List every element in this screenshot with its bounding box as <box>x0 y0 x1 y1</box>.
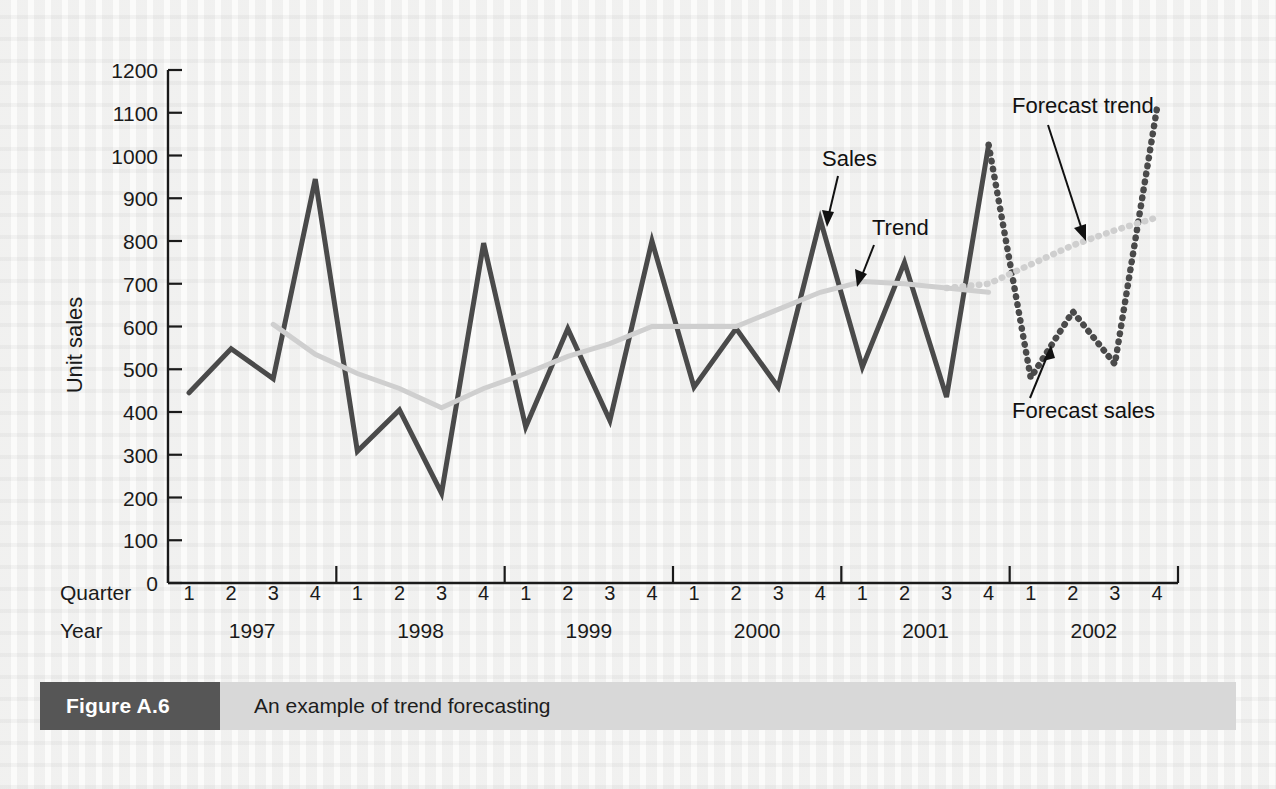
x-axis-quarter-label: 1 <box>1025 582 1036 604</box>
x-axis-year-label: 1998 <box>397 619 444 642</box>
x-axis-quarter-label: 1 <box>352 582 363 604</box>
y-axis-tick-label: 400 <box>123 401 158 424</box>
x-axis-year-label: 1997 <box>229 619 276 642</box>
y-axis-tick-label: 1100 <box>113 102 158 125</box>
x-axis-quarter-label: 1 <box>688 582 699 604</box>
y-axis-tick-label: 0 <box>146 572 158 595</box>
x-axis-quarter-label: 3 <box>1109 582 1120 604</box>
annotation-label-trend: Trend <box>872 215 929 240</box>
x-axis-quarter-label: 2 <box>1067 582 1078 604</box>
x-axis-quarter-label: 4 <box>815 582 826 604</box>
x-axis-quarter-label: 3 <box>941 582 952 604</box>
series-line-trend <box>273 282 988 408</box>
y-axis-tick-label: 800 <box>123 230 158 253</box>
annotation-arrowhead-forecast-trend <box>1074 224 1086 241</box>
x-axis-quarter-label: 4 <box>1151 582 1162 604</box>
figure-number-box: Figure A.6 <box>40 682 220 730</box>
trend-forecast-line-chart: Unit sales 01002003004005006007008009001… <box>0 0 1276 660</box>
y-axis-tick-label: 900 <box>123 187 158 210</box>
chart-plot-area: Unit sales 01002003004005006007008009001… <box>0 0 1276 660</box>
y-axis-tick-label: 600 <box>123 316 158 339</box>
x-axis-quarter-label: 1 <box>183 582 194 604</box>
x-axis-year-label: 2002 <box>1070 619 1117 642</box>
y-axis-tick-label: 700 <box>123 273 158 296</box>
x-axis-quarter-label: 2 <box>562 582 573 604</box>
figure-caption-box: An example of trend forecasting <box>220 682 1236 730</box>
figure-number-text: Figure A.6 <box>66 694 170 718</box>
year-row-label: Year <box>60 619 102 642</box>
annotation-label-forecast-trend: Forecast trend <box>1012 93 1154 118</box>
y-axis-title: Unit sales <box>62 297 87 394</box>
x-axis-quarter-label: 2 <box>731 582 742 604</box>
y-axis-ticks: 0100200300400500600700800900100011001200 <box>111 59 182 595</box>
x-axis-quarter-label: 3 <box>268 582 279 604</box>
x-axis-quarter-label: 2 <box>226 582 237 604</box>
x-axis-year-labels: 199719981999200020012002 <box>229 619 1117 642</box>
x-axis-quarter-label: 3 <box>604 582 615 604</box>
x-axis-quarter-label: 1 <box>520 582 531 604</box>
y-axis-tick-label: 500 <box>123 358 158 381</box>
x-axis-quarter-label: 4 <box>983 582 994 604</box>
x-axis-quarter-label: 3 <box>773 582 784 604</box>
x-axis-quarter-label: 4 <box>646 582 657 604</box>
x-axis-quarter-labels: 123412341234123412341234 <box>183 582 1162 604</box>
y-axis-tick-label: 200 <box>123 487 158 510</box>
figure-trend-forecasting: Unit sales 01002003004005006007008009001… <box>0 0 1276 789</box>
y-axis-tick-label: 300 <box>123 444 158 467</box>
figure-caption-text: An example of trend forecasting <box>254 694 551 718</box>
annotation-label-forecast-sales: Forecast sales <box>1012 398 1155 423</box>
y-axis-tick-label: 1000 <box>111 145 158 168</box>
annotation-label-sales: Sales <box>822 146 877 171</box>
chart-series-group <box>189 108 1157 493</box>
series-line-sales <box>189 145 989 493</box>
annotation-arrow-forecast-trend <box>1048 125 1082 230</box>
x-axis-year-label: 1999 <box>565 619 612 642</box>
x-axis-quarter-label: 4 <box>478 582 489 604</box>
y-axis-tick-label: 1200 <box>111 59 158 82</box>
x-axis-quarter-label: 4 <box>310 582 321 604</box>
x-axis-quarter-label: 2 <box>899 582 910 604</box>
x-axis-quarter-label: 2 <box>394 582 405 604</box>
y-axis-tick-label: 100 <box>123 529 158 552</box>
x-axis-quarter-label: 3 <box>436 582 447 604</box>
series-line-forecast-trend <box>947 217 1157 288</box>
quarter-row-label: Quarter <box>60 581 131 604</box>
figure-caption-bar: Figure A.6 An example of trend forecasti… <box>40 682 1236 730</box>
x-axis-year-label: 2000 <box>734 619 781 642</box>
x-axis-quarter-label: 1 <box>857 582 868 604</box>
x-axis-year-separators <box>168 566 1178 583</box>
x-axis-year-label: 2001 <box>902 619 949 642</box>
